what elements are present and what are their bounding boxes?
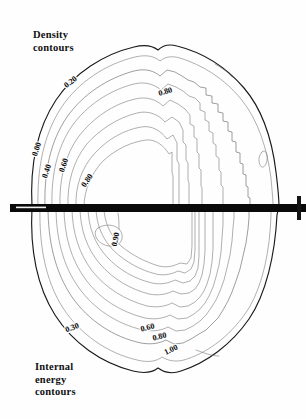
contour-figure: 0.20 0.20 0.00 0.00 0.40 0.40 0.60 0.60 … [0,0,306,419]
contour-label-energy-1-00: 1.00 [163,343,179,357]
contour-label-density-0-40: 0.40 [40,163,53,179]
contour-label-density-0-60: 0.60 [57,157,70,173]
density-contour-0-00 [68,112,189,207]
density-boundary-notch [215,64,232,77]
contour-label-density-0-00: 0.00 [30,141,43,157]
contour-plot-canvas: 0.20 0.20 0.00 0.00 0.40 0.40 0.60 0.60 … [0,0,306,419]
internal-energy-contour-0-80 [56,207,234,331]
density-contour-group [32,45,279,207]
density-contour-0-60 [52,83,223,207]
symmetry-axis-bar [10,196,306,220]
axis-bar-body [10,204,306,212]
internal-energy-filament [118,213,119,229]
density-contour-blob [259,151,267,167]
contour-label-energy-0-60: 0.60 [140,322,156,334]
internal-energy-contour-group [32,207,279,373]
axis-bar-right-cap [297,196,301,220]
density-contour-inner-a [76,127,179,207]
axis-bar-highlight [16,207,46,209]
internal-energy-outer-boundary [32,207,279,373]
density-outer-boundary [32,45,279,207]
internal-energy-contours-caption: Internal energy contours [35,361,76,399]
density-contours-caption: Density contours [33,29,74,54]
contour-label-energy-0-30: 0.30 [64,321,80,335]
contour-label-density-0-80-top: 0.80 [157,85,173,97]
density-contour-inner-b [84,140,173,207]
contour-label-density-0-80-left: 0.80 [79,172,94,189]
internal-energy-contour-inner-a [80,207,205,295]
